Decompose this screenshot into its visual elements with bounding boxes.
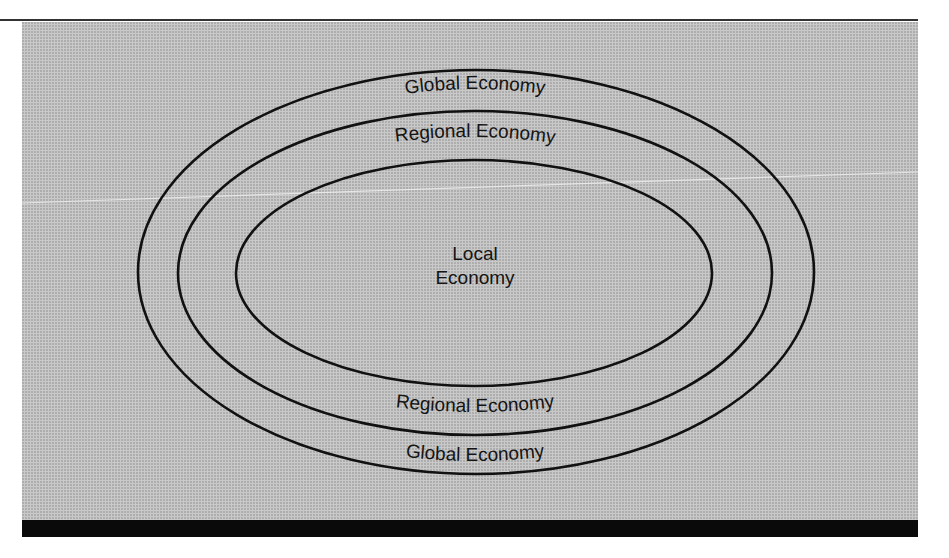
economy-diagram: Global Economy Regional Economy Local Ec… — [0, 0, 949, 558]
regional-economy-bottom-label-text: Regional Economy — [395, 390, 556, 416]
regional-economy-top-label-text: Regional Economy — [394, 120, 558, 147]
global-economy-bottom-label-text: Global Economy — [405, 440, 546, 465]
global-economy-bottom-label: Global Economy — [405, 440, 546, 465]
local-economy-label-line1: Local — [452, 243, 497, 264]
regional-economy-top-label: Regional Economy — [394, 120, 558, 147]
global-economy-top-label-text: Global Economy — [403, 72, 547, 98]
global-economy-top-label: Global Economy — [403, 72, 547, 98]
local-economy-label-line2: Economy — [435, 267, 515, 288]
regional-economy-bottom-label: Regional Economy — [395, 390, 556, 416]
